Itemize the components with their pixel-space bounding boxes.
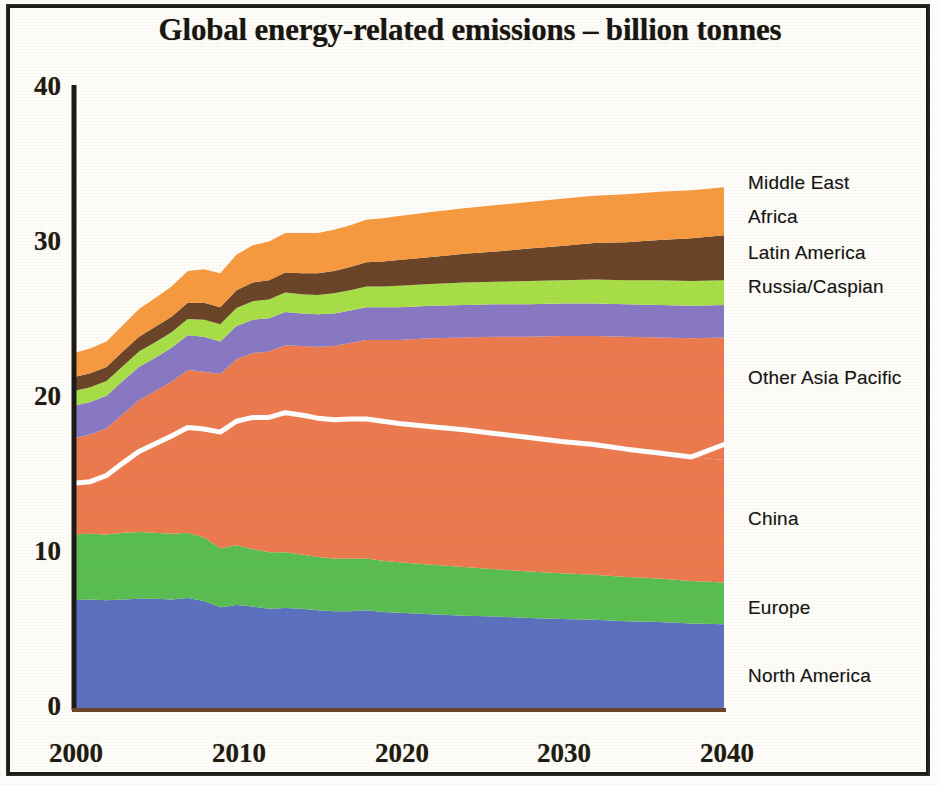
y-tick-40: 40	[34, 71, 61, 102]
y-tick-30: 30	[34, 226, 61, 257]
x-tick-2040: 2040	[700, 738, 754, 769]
x-tick-2030: 2030	[537, 738, 591, 769]
chart-page: Global energy-related emissions – billio…	[0, 0, 940, 785]
series-label-north-america: North America	[748, 665, 871, 687]
series-label-africa: Africa	[748, 206, 798, 228]
x-tick-2020: 2020	[375, 738, 429, 769]
plot-area: 40 30 20 10 0 2000 2010 2020 2030 2040 M…	[0, 0, 940, 785]
series-label-europe: Europe	[748, 597, 810, 619]
series-label-china: China	[748, 508, 799, 530]
series-label-other-asia-pacific: Other Asia Pacific	[748, 367, 902, 389]
y-tick-0: 0	[48, 691, 62, 722]
x-tick-2010: 2010	[212, 738, 266, 769]
x-tick-2000: 2000	[49, 738, 103, 769]
series-label-russia-caspian: Russia/Caspian	[748, 276, 884, 298]
y-tick-10: 10	[34, 536, 61, 567]
series-label-middle-east: Middle East	[748, 172, 849, 194]
series-label-latin-america: Latin America	[748, 242, 866, 264]
y-tick-20: 20	[34, 381, 61, 412]
